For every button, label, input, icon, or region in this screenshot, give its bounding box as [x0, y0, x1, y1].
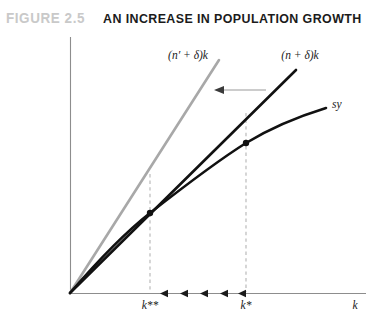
label-curve-sy: sy [332, 98, 342, 111]
solow-growth-chart: (n′ + δ)k (n + δ)k sy k** k* k [0, 30, 373, 335]
shift-arrow-head-icon [214, 86, 224, 94]
label-line-n-delta-k: (n + δ)k [281, 49, 319, 62]
axis-transition-arrow-icon-1 [160, 290, 168, 297]
axis-transition-arrow-icon-5 [238, 290, 246, 297]
label-x-axis: k [352, 299, 358, 311]
equilibrium-dot-k-star [243, 140, 249, 146]
figure-page: FIGURE 2.5 AN INCREASE IN POPULATION GRO… [0, 0, 373, 335]
label-k-double-star: k** [142, 299, 159, 311]
curve-sy [70, 108, 326, 293]
label-line-n-prime-delta-k: (n′ + δ)k [168, 49, 209, 62]
axis-transition-arrow-icon-2 [180, 290, 188, 297]
axis-transition-arrow-icon-4 [220, 290, 228, 297]
chart-plot-area: (n′ + δ)k (n + δ)k sy k** k* k [0, 30, 373, 335]
figure-number-label: FIGURE 2.5 [6, 10, 85, 26]
label-k-star: k* [241, 299, 252, 311]
line-n-delta-k [70, 70, 296, 293]
axis-transition-arrow-icon-3 [200, 290, 208, 297]
page-title: AN INCREASE IN POPULATION GROWTH [103, 11, 362, 26]
equilibrium-dot-k-double-star [147, 210, 153, 216]
